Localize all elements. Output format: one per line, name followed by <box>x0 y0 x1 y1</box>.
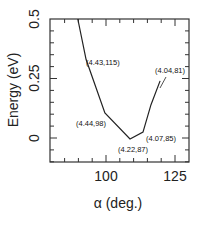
xtick-label-125: 125 <box>163 168 187 184</box>
energy-vs-alpha-chart: 0.5 0.25 0 100 125 Energy (eV) α (deg.) … <box>0 0 199 225</box>
y-axis-title: Energy (eV) <box>5 53 21 128</box>
annotation-4.43-115: (4.43,115) <box>86 58 120 67</box>
annotation-4.07-85: (4.07,85) <box>146 134 177 143</box>
annotation-leader-4.04-81 <box>160 77 166 88</box>
ytick-label-0.5: 0.5 <box>26 9 42 29</box>
ytick-label-0: 0 <box>26 134 42 142</box>
annotation-4.44-98: (4.44,98) <box>76 119 107 128</box>
x-axis-title: α (deg.) <box>94 195 143 211</box>
xtick-label-100: 100 <box>94 168 118 184</box>
ytick-label-0.25: 0.25 <box>26 64 42 91</box>
annotation-4.04-81: (4.04,81) <box>155 66 186 75</box>
annotation-4.22-87: (4.22,87) <box>118 145 149 154</box>
